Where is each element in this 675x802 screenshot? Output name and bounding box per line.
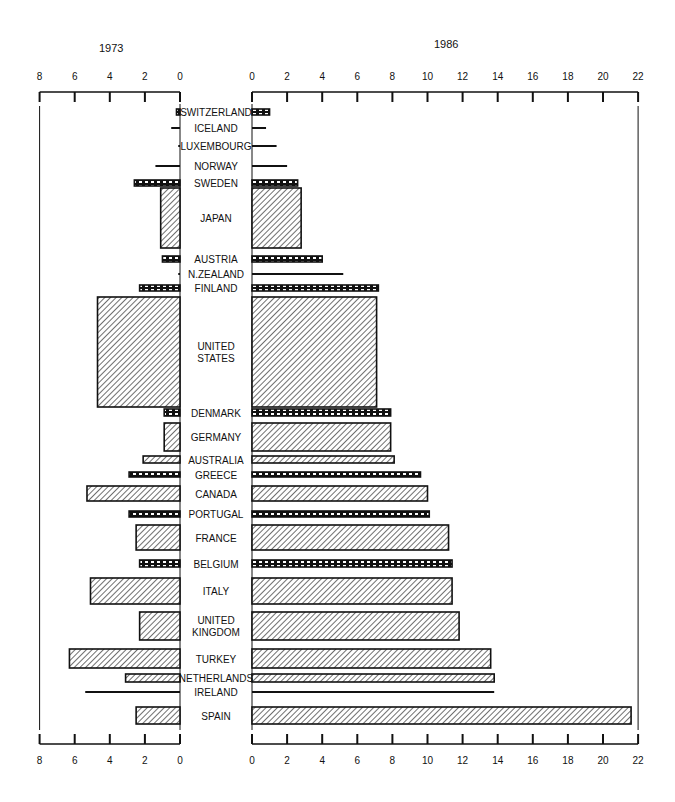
bar-1973 bbox=[155, 165, 180, 167]
bar-1986 bbox=[252, 423, 391, 451]
bar-1973 bbox=[129, 511, 180, 517]
country-label: IRELAND bbox=[194, 687, 237, 698]
tick-label: 16 bbox=[527, 755, 539, 766]
bar-1986 bbox=[252, 691, 494, 693]
tick-label: 8 bbox=[390, 755, 396, 766]
bar-1986 bbox=[252, 511, 429, 517]
bar-1973 bbox=[164, 423, 180, 451]
tick-label: 10 bbox=[422, 755, 434, 766]
bar-1973 bbox=[162, 256, 180, 262]
country-label: UNITED bbox=[197, 341, 234, 352]
country-label: GREECE bbox=[195, 470, 238, 481]
bar-1973 bbox=[134, 180, 180, 186]
bar-1986 bbox=[252, 612, 459, 640]
bar-1973 bbox=[126, 674, 180, 682]
tick-label: 4 bbox=[107, 755, 113, 766]
tick-label: 4 bbox=[107, 71, 113, 82]
chart: 1973 1986 864200246810121416182022864200… bbox=[0, 0, 675, 802]
country-label: JAPAN bbox=[200, 213, 232, 224]
bar-1973 bbox=[161, 188, 180, 248]
bar-1986 bbox=[252, 649, 491, 668]
bar-1973 bbox=[69, 649, 180, 668]
country-label: AUSTRALIA bbox=[188, 455, 244, 466]
bar-1986 bbox=[252, 674, 494, 682]
country-label: BELGIUM bbox=[193, 559, 238, 570]
country-label: ICELAND bbox=[194, 123, 237, 134]
bar-1973 bbox=[98, 297, 180, 407]
country-label: FINLAND bbox=[195, 283, 238, 294]
tick-label: 18 bbox=[562, 755, 574, 766]
bar-1973 bbox=[87, 486, 180, 501]
tick-label: 12 bbox=[457, 755, 469, 766]
bar-1973 bbox=[143, 456, 180, 463]
bar-1973 bbox=[136, 525, 180, 550]
tick-label: 4 bbox=[319, 71, 325, 82]
bar-1986 bbox=[252, 285, 378, 291]
bar-1973 bbox=[129, 472, 180, 477]
tick-label: 20 bbox=[597, 71, 609, 82]
tick-label: 2 bbox=[284, 71, 290, 82]
bar-1973 bbox=[85, 691, 180, 693]
bar-1973 bbox=[90, 578, 180, 604]
tick-label: 0 bbox=[177, 71, 183, 82]
bar-1986 bbox=[252, 486, 428, 501]
country-label: SWEDEN bbox=[194, 178, 238, 189]
bar-1973 bbox=[171, 127, 180, 129]
tick-label: 6 bbox=[72, 755, 78, 766]
country-label: AUSTRIA bbox=[194, 254, 238, 265]
bar-1973 bbox=[140, 560, 180, 567]
tick-label: 18 bbox=[562, 71, 574, 82]
bar-1986 bbox=[252, 560, 452, 567]
country-label: SWITZERLAND bbox=[180, 107, 252, 118]
country-label: SPAIN bbox=[201, 711, 230, 722]
bar-1986 bbox=[252, 525, 449, 550]
tick-label: 6 bbox=[355, 755, 361, 766]
bar-1986 bbox=[252, 145, 277, 147]
country-label: LUXEMBOURG bbox=[180, 141, 251, 152]
tick-label: 12 bbox=[457, 71, 469, 82]
country-label: FRANCE bbox=[195, 533, 236, 544]
bar-1973 bbox=[136, 707, 180, 724]
country-label: NETHERLANDS bbox=[179, 673, 254, 684]
bar-1986 bbox=[252, 127, 266, 129]
country-label: PORTUGAL bbox=[189, 509, 244, 520]
tick-label: 0 bbox=[249, 71, 255, 82]
bar-1986 bbox=[252, 273, 343, 275]
tick-label: 0 bbox=[177, 755, 183, 766]
tick-label: 2 bbox=[142, 755, 148, 766]
bar-1986 bbox=[252, 456, 394, 463]
country-label: STATES bbox=[197, 353, 235, 364]
bar-1986 bbox=[252, 472, 420, 477]
tick-label: 8 bbox=[390, 71, 396, 82]
bar-1973 bbox=[178, 273, 180, 275]
tick-label: 14 bbox=[492, 71, 504, 82]
country-label: UNITED bbox=[197, 615, 234, 626]
bar-1973 bbox=[164, 409, 180, 416]
bar-1986 bbox=[252, 180, 298, 186]
country-label: KINGDOM bbox=[192, 627, 240, 638]
bar-1986 bbox=[252, 707, 631, 724]
tick-label: 20 bbox=[597, 755, 609, 766]
country-label: DENMARK bbox=[191, 408, 241, 419]
tick-label: 22 bbox=[633, 71, 645, 82]
tick-label: 2 bbox=[284, 755, 290, 766]
bar-1986 bbox=[252, 256, 322, 262]
bar-1986 bbox=[252, 297, 377, 407]
tick-label: 22 bbox=[633, 755, 645, 766]
tick-label: 6 bbox=[355, 71, 361, 82]
country-labels: SWITZERLANDICELANDLUXEMBOURGNORWAYSWEDEN… bbox=[179, 107, 254, 722]
bar-1986 bbox=[252, 188, 301, 248]
country-label: NORWAY bbox=[194, 161, 238, 172]
tick-label: 10 bbox=[422, 71, 434, 82]
tick-label: 14 bbox=[492, 755, 504, 766]
tick-label: 0 bbox=[249, 755, 255, 766]
bar-1986 bbox=[252, 109, 270, 115]
bars bbox=[69, 109, 631, 724]
bar-1973 bbox=[140, 285, 180, 291]
country-label: N.ZEALAND bbox=[188, 269, 244, 280]
bar-1973 bbox=[140, 612, 180, 640]
tick-label: 6 bbox=[72, 71, 78, 82]
country-label: ITALY bbox=[203, 586, 230, 597]
tick-label: 2 bbox=[142, 71, 148, 82]
country-label: CANADA bbox=[195, 489, 237, 500]
